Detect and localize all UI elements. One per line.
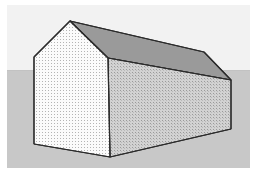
- illustration-canvas: Gabled building in three-point perspecti…: [0, 0, 257, 176]
- scene-svg: Gabled building in three-point perspecti…: [0, 0, 257, 176]
